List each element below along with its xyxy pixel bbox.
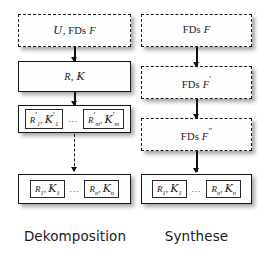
- dek-cell-r1-prime: R′1, K′1: [25, 109, 63, 129]
- caption-dekomposition: Dekomposition: [10, 228, 140, 244]
- dek-cell-rn: Rn, Kn: [84, 180, 119, 198]
- dek-cell-r1: R1, K1: [30, 180, 65, 198]
- arrow-shaft: [74, 134, 75, 171]
- dek-node-1-label: U, FDs F: [53, 25, 96, 37]
- dek-node-3-ellipsis: ...: [67, 115, 79, 124]
- syn-node-fds-f: FDs F: [141, 14, 252, 47]
- syn-node-final-decomposition: R1, K1 ... Rn, Kn: [141, 174, 252, 204]
- dek-node-4-ellipsis: ...: [69, 185, 81, 194]
- dek-node-relation-keys: R, K: [18, 61, 131, 92]
- arrow-head: [71, 167, 77, 172]
- syn-node-3-label: FDs F″: [181, 128, 212, 142]
- dek-node-universe-fds: U, FDs F: [18, 14, 131, 47]
- syn-node-1-label: FDs F: [183, 25, 211, 36]
- syn-node-fds-f-prime: FDs F′: [141, 66, 252, 99]
- syn-arrow-3: [196, 151, 198, 172]
- diagram-canvas: U, FDs F R, K R′1, K′1 ... R′m, K′m R1, …: [0, 0, 264, 262]
- syn-cell-rn: Rn, Kn: [206, 180, 241, 198]
- syn-node-fds-f-double-prime: FDs F″: [141, 118, 252, 151]
- dek-arrow-3-dashed: [74, 134, 76, 171]
- dek-node-primed-decomposition: R′1, K′1 ... R′m, K′m: [18, 105, 131, 133]
- syn-node-2-label: FDs F′: [182, 76, 212, 90]
- syn-arrow-1: [196, 47, 198, 66]
- dek-arrow-2: [74, 92, 76, 105]
- syn-node-4-ellipsis: ...: [191, 185, 203, 194]
- syn-arrow-2: [196, 99, 198, 118]
- dek-node-final-decomposition: R1, K1 ... Rn, Kn: [18, 174, 131, 204]
- dek-node-2-label: R, K: [64, 71, 85, 83]
- dek-cell-rm-prime: R′m, K′m: [83, 109, 124, 129]
- arrow-head: [193, 168, 199, 173]
- dek-arrow-1: [74, 47, 76, 61]
- syn-cell-r1: R1, K1: [152, 180, 187, 198]
- caption-synthese: Synthese: [141, 228, 252, 244]
